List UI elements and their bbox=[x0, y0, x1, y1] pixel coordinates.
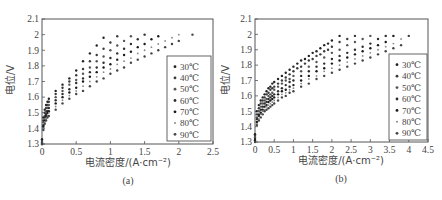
chart-panel-b: 1.31.41.51.61.71.81.922.100.511.522.533.… bbox=[219, 14, 434, 185]
x-tick-label: 2.5 bbox=[345, 145, 357, 155]
data-point bbox=[273, 89, 275, 91]
data-point bbox=[96, 60, 98, 62]
x-axis-title: 电流密度/(A·cm⁻²) bbox=[298, 154, 384, 166]
data-point bbox=[281, 87, 283, 89]
data-point bbox=[273, 100, 275, 102]
y-tick-label: 1.7 bbox=[27, 77, 39, 87]
data-point bbox=[96, 54, 98, 56]
data-point bbox=[281, 96, 283, 98]
data-point bbox=[103, 71, 105, 73]
data-point bbox=[300, 59, 302, 61]
y-tick-label: 1.6 bbox=[27, 92, 39, 102]
data-point bbox=[315, 61, 317, 63]
data-point bbox=[102, 47, 104, 49]
legend-label: 90℃ bbox=[402, 128, 421, 138]
data-point bbox=[285, 76, 287, 78]
data-point bbox=[123, 40, 125, 42]
legend-label: 80℃ bbox=[180, 118, 199, 128]
data-point bbox=[267, 101, 269, 103]
data-point bbox=[96, 80, 98, 82]
data-point bbox=[281, 90, 283, 92]
data-point bbox=[123, 47, 125, 49]
data-point bbox=[400, 44, 402, 46]
x-tick-label: 4 bbox=[406, 145, 411, 155]
data-point bbox=[323, 75, 325, 77]
x-axis-title: 电流密度/(A·cm⁻²) bbox=[85, 156, 171, 168]
data-point bbox=[48, 112, 50, 114]
data-point bbox=[331, 58, 333, 60]
data-point bbox=[267, 98, 269, 100]
data-point bbox=[338, 55, 340, 57]
y-tick-label: 2.1 bbox=[27, 14, 39, 24]
data-point bbox=[256, 118, 258, 120]
data-point bbox=[178, 34, 180, 36]
data-point bbox=[369, 35, 371, 37]
legend-label: 50℃ bbox=[402, 83, 421, 93]
data-point bbox=[144, 49, 146, 51]
data-point bbox=[300, 83, 302, 85]
data-point bbox=[288, 92, 290, 94]
y-tick-label: 1.5 bbox=[27, 108, 39, 118]
data-point bbox=[45, 119, 47, 121]
data-point bbox=[269, 99, 271, 101]
data-point bbox=[392, 47, 394, 49]
data-point bbox=[292, 75, 294, 77]
x-tick-label: 0.5 bbox=[70, 147, 82, 157]
data-point bbox=[54, 102, 56, 104]
data-point bbox=[354, 53, 356, 55]
data-point bbox=[377, 49, 379, 51]
data-point bbox=[377, 38, 379, 40]
legend-label: 60℃ bbox=[402, 94, 421, 104]
data-point bbox=[361, 59, 363, 61]
data-point bbox=[308, 70, 310, 72]
y-axis-title: 电位/V bbox=[219, 65, 231, 95]
series-40℃ bbox=[41, 35, 119, 142]
data-point bbox=[300, 65, 302, 67]
legend: 30℃40℃50℃60℃70℃80℃90℃ bbox=[167, 56, 211, 141]
data-point bbox=[288, 81, 290, 83]
data-point bbox=[102, 55, 104, 57]
data-point bbox=[311, 52, 313, 54]
data-point bbox=[338, 69, 340, 71]
data-point bbox=[296, 62, 298, 64]
x-tick-label: 3 bbox=[368, 145, 373, 155]
legend: 30℃40℃50℃60℃70℃80℃90℃ bbox=[389, 54, 427, 140]
x-axis: 00.511.522.5 bbox=[40, 141, 220, 157]
data-point bbox=[48, 115, 50, 117]
x-tick-label: 1 bbox=[291, 145, 296, 155]
data-point bbox=[137, 38, 139, 40]
data-point bbox=[75, 82, 77, 84]
data-point bbox=[308, 55, 310, 57]
data-point bbox=[281, 79, 283, 81]
data-point bbox=[281, 82, 283, 84]
data-point bbox=[300, 79, 302, 81]
data-point bbox=[157, 43, 159, 45]
data-point bbox=[260, 116, 262, 118]
data-point bbox=[75, 93, 77, 95]
data-points bbox=[254, 35, 410, 143]
data-point bbox=[75, 74, 77, 76]
data-point bbox=[269, 93, 271, 95]
data-point bbox=[308, 78, 310, 80]
data-point bbox=[277, 85, 279, 87]
data-point bbox=[293, 87, 295, 89]
data-point bbox=[288, 73, 290, 75]
data-point bbox=[260, 113, 262, 115]
data-point bbox=[339, 64, 341, 66]
data-point bbox=[75, 90, 77, 92]
data-point bbox=[61, 96, 63, 98]
data-point bbox=[285, 89, 287, 91]
data-point bbox=[263, 102, 265, 104]
data-point bbox=[346, 38, 348, 40]
data-point bbox=[331, 52, 333, 54]
data-point bbox=[123, 54, 125, 56]
data-point bbox=[361, 38, 363, 40]
data-point bbox=[281, 75, 283, 77]
series-70℃ bbox=[41, 35, 160, 145]
data-point bbox=[82, 80, 84, 82]
data-point bbox=[75, 69, 77, 71]
data-point bbox=[82, 68, 84, 70]
data-point bbox=[150, 38, 152, 40]
data-point bbox=[277, 90, 279, 92]
x-tick-label: 0 bbox=[253, 145, 258, 155]
